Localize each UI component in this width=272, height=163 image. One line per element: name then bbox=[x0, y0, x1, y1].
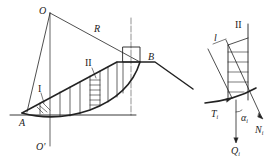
label-normal-n: Ni bbox=[254, 124, 264, 136]
label-slice-i: I bbox=[38, 83, 41, 94]
radius-line-r bbox=[50, 13, 140, 62]
label-center-o: O bbox=[39, 5, 46, 16]
left-diagram bbox=[10, 13, 193, 146]
slice-hatch-right bbox=[228, 52, 248, 92]
slope-surface bbox=[22, 62, 193, 113]
slope-stability-diagram: O R B A O' II I II l Ti αi Ni Qi bbox=[0, 0, 272, 163]
weight-arrowhead bbox=[234, 138, 238, 143]
shear-arrowhead bbox=[226, 98, 232, 102]
label-angle-alpha: αi bbox=[241, 112, 248, 124]
label-width-l: l bbox=[214, 32, 217, 43]
label-crest-b: B bbox=[148, 51, 154, 62]
label-slice-ii: II bbox=[85, 57, 92, 68]
slice-ii-hatch bbox=[90, 80, 100, 105]
slice-divisions bbox=[40, 62, 123, 116]
label-center-below: O' bbox=[36, 141, 46, 152]
label-toe-a: A bbox=[18, 117, 26, 128]
label-shear-t: Ti bbox=[211, 108, 219, 120]
label-right-slice-ii: II bbox=[235, 19, 242, 30]
radius-line-to-toe bbox=[27, 13, 50, 112]
label-weight-q: Qi bbox=[231, 145, 240, 157]
label-radius-r: R bbox=[93, 23, 100, 34]
slice-top bbox=[228, 38, 248, 45]
